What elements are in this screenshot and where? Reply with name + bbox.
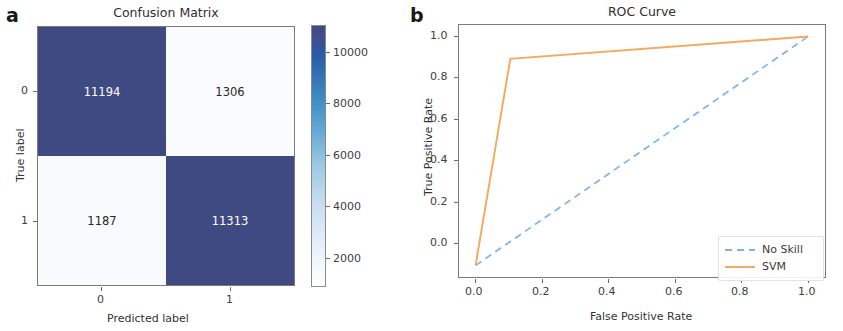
colorbar-tick-label-10000: 10000	[333, 46, 368, 59]
colorbar-tick-mark-4000	[326, 206, 330, 207]
confusion-matrix-axes: 11194 1306 1187 11313	[37, 26, 295, 286]
legend-entry-svm: SVM	[725, 258, 817, 275]
colorbar-tick-mark-2000	[326, 258, 330, 259]
cm-ytick-mark-0	[33, 91, 37, 92]
roc-ytick-label-0.2: 0.2	[430, 195, 448, 208]
roc-ytick-mark-0.8	[454, 77, 458, 78]
legend-label-no-skill: No Skill	[762, 243, 803, 256]
confusion-cell-value: 11313	[212, 214, 249, 228]
cm-xtick-mark-0	[101, 287, 102, 291]
confusion-cell-1-1: 11313	[166, 156, 294, 285]
confusion-matrix-title: Confusion Matrix	[37, 5, 295, 20]
colorbar-tick-label-4000: 4000	[333, 200, 361, 213]
confusion-cell-0-0: 11194	[38, 27, 166, 156]
roc-xtick-mark-0.2	[542, 279, 543, 283]
roc-xtick-mark-0.0	[475, 279, 476, 283]
cm-ytick-label-1: 1	[21, 214, 28, 227]
roc-xtick-label-0.0: 0.0	[465, 285, 483, 298]
panel-letter-a: a	[6, 4, 19, 26]
cm-ytick-label-0: 0	[21, 84, 28, 97]
cm-xtick-label-1: 1	[226, 293, 233, 306]
roc-ytick-label-0.8: 0.8	[430, 70, 448, 83]
roc-xtick-label-1.0: 1.0	[798, 285, 816, 298]
roc-xtick-mark-0.6	[675, 279, 676, 283]
cm-xtick-mark-1	[230, 287, 231, 291]
colorbar-tick-mark-6000	[326, 155, 330, 156]
roc-legend: No Skill SVM	[718, 236, 824, 281]
roc-xaxis-label: False Positive Rate	[590, 310, 692, 323]
colorbar-tick-label-8000: 8000	[333, 97, 361, 110]
confusion-cell-1-0: 1187	[38, 156, 166, 285]
legend-line-no-skill-icon	[725, 245, 755, 255]
colorbar	[311, 25, 326, 287]
colorbar-tick-mark-10000	[326, 52, 330, 53]
cm-xaxis-label: Predicted label	[107, 312, 189, 325]
roc-ytick-label-0.0: 0.0	[430, 236, 448, 249]
confusion-cell-0-1: 1306	[166, 27, 294, 156]
colorbar-tick-label-6000: 6000	[333, 149, 361, 162]
confusion-cell-value: 1306	[215, 85, 244, 99]
colorbar-tick-mark-8000	[326, 103, 330, 104]
confusion-cell-value: 11194	[84, 85, 121, 99]
roc-xtick-label-0.8: 0.8	[731, 285, 749, 298]
panel-letter-b: b	[410, 4, 424, 26]
confusion-matrix-grid: 11194 1306 1187 11313	[38, 27, 294, 285]
colorbar-tick-label-2000: 2000	[333, 252, 361, 265]
cm-yaxis-label: True label	[14, 129, 27, 182]
confusion-cell-value: 1187	[87, 214, 116, 228]
roc-ytick-mark-1.0	[454, 36, 458, 37]
roc-xtick-mark-0.4	[608, 279, 609, 283]
legend-entry-no-skill: No Skill	[725, 241, 817, 258]
roc-ytick-mark-0.4	[454, 160, 458, 161]
roc-ytick-mark-0.2	[454, 202, 458, 203]
figure-container: a Confusion Matrix 11194 1306 1187 11313…	[0, 0, 843, 331]
series-no-skill-line	[476, 37, 808, 266]
roc-ytick-label-1.0: 1.0	[430, 29, 448, 42]
legend-label-svm: SVM	[762, 260, 786, 273]
cm-ytick-mark-1	[33, 221, 37, 222]
roc-xtick-label-0.4: 0.4	[598, 285, 616, 298]
roc-title: ROC Curve	[458, 4, 826, 19]
legend-line-svm-icon	[725, 262, 755, 272]
roc-ytick-mark-0.0	[454, 243, 458, 244]
roc-yaxis-label: True Positive Rate	[422, 98, 435, 196]
roc-xtick-label-0.6: 0.6	[665, 285, 683, 298]
roc-ytick-mark-0.6	[454, 119, 458, 120]
cm-xtick-label-0: 0	[97, 293, 104, 306]
roc-xtick-label-0.2: 0.2	[532, 285, 550, 298]
